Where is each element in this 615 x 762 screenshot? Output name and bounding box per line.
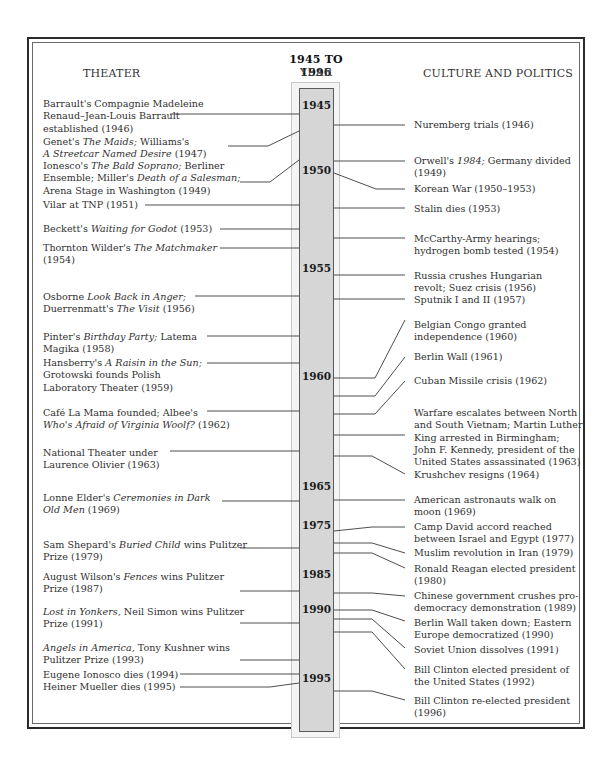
connector-lines (0, 0, 615, 762)
